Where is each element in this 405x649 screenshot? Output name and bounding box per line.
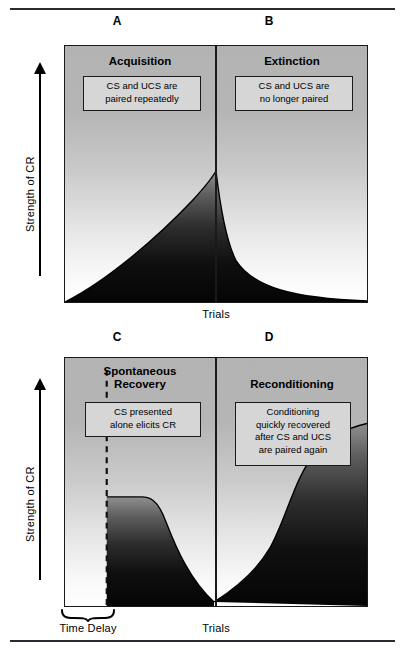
caption-box-acquisition: CS and UCS are paired repeatedly — [83, 76, 201, 111]
caption-acquisition-line-1: CS and UCS are — [88, 80, 196, 93]
caption-box-extinction: CS and UCS are no longer paired — [235, 76, 353, 111]
caption-box-reconditioning: Conditioning quickly recovered after CS … — [235, 402, 351, 466]
y-axis-label-top: Strength of CR — [24, 156, 36, 232]
caption-box-spontaneous-recovery: CS presented alone elicits CR — [85, 402, 201, 437]
panel-divider-top — [215, 46, 217, 302]
caption-extinction-line-1: CS and UCS are — [240, 80, 348, 93]
x-axis-label-bottom: Trials — [176, 622, 256, 634]
panel-group-top: A B Strength of CR — [0, 14, 405, 324]
caption-reconditioning-line-1: Conditioning — [240, 406, 346, 419]
caption-reconditioning-line-3: after CS and UCS — [240, 431, 346, 444]
heading-acquisition: Acquisition — [65, 55, 215, 68]
extinction-curve-area — [216, 171, 367, 302]
y-axis-line — [39, 72, 41, 276]
bottom-divider-rule — [10, 640, 395, 642]
caption-recovery-line-2: alone elicits CR — [90, 419, 196, 432]
plot-frame-recovery-reconditioning: Spontaneous Recovery Reconditioning CS p… — [64, 357, 368, 607]
time-delay-brace-icon — [60, 608, 116, 622]
y-axis-line — [39, 388, 41, 580]
panel-letter-b: B — [259, 14, 279, 28]
panel-divider-bottom — [215, 358, 217, 606]
panel-group-bottom: C D Strength of CR — [0, 330, 405, 635]
caption-reconditioning-line-4: are paired again — [240, 444, 346, 457]
acquisition-curve-area — [65, 171, 216, 302]
heading-spontaneous-line-2: Recovery — [65, 378, 215, 391]
panel-letter-a: A — [107, 14, 127, 28]
caption-acquisition-line-2: paired repeatedly — [88, 93, 196, 106]
heading-reconditioning: Reconditioning — [217, 378, 367, 391]
time-delay-label: Time Delay — [43, 622, 133, 634]
top-divider-rule — [10, 8, 395, 10]
heading-spontaneous-recovery: Spontaneous Recovery — [65, 365, 215, 391]
panel-letter-d: D — [259, 330, 279, 344]
caption-reconditioning-line-2: quickly recovered — [240, 419, 346, 432]
caption-extinction-line-2: no longer paired — [240, 93, 348, 106]
y-axis-label-bottom: Strength of CR — [24, 466, 36, 542]
plot-frame-acquisition-extinction: Acquisition Extinction CS and UCS are pa… — [64, 45, 368, 303]
figure-container: A B Strength of CR — [0, 0, 405, 649]
heading-spontaneous-line-1: Spontaneous — [65, 365, 215, 378]
spontaneous-recovery-curve-area — [107, 497, 214, 606]
heading-extinction: Extinction — [217, 55, 367, 68]
caption-recovery-line-1: CS presented — [90, 406, 196, 419]
x-axis-label-top: Trials — [176, 308, 256, 320]
panel-letter-c: C — [107, 330, 127, 344]
